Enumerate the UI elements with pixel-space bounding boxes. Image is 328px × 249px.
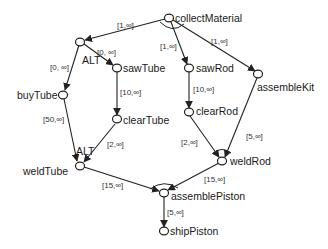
- node-cleartube[interactable]: [113, 115, 122, 123]
- label-assemblepiston: assemblePiston: [171, 190, 245, 202]
- node-alt-split[interactable]: [76, 38, 85, 46]
- elabel-assemblekit-to-weldrod: [5,∞]: [246, 132, 263, 141]
- node-collectmaterial[interactable]: [165, 14, 174, 22]
- label-weldtube: weldTube: [22, 165, 68, 177]
- node-weldrod[interactable]: [218, 157, 227, 165]
- elabel-assemblepiston-to-shippiston: [5,∞]: [167, 208, 184, 217]
- label-sawrod: sawRod: [196, 62, 234, 74]
- elabel-alt-to-buytube: [0, ∞]: [50, 63, 69, 72]
- elabel-sawtube-to-cleartube: [10,∞]: [120, 88, 141, 97]
- node-shippiston[interactable]: [160, 227, 169, 235]
- label-weldrod: weldRod: [229, 155, 271, 167]
- node-assemblepiston[interactable]: [160, 189, 169, 197]
- elabel-sawrod-to-clearrod: [10,∞]: [193, 85, 214, 94]
- edge-clearrod-to-weldrod: [190, 116, 219, 157]
- elabel-weldrod-to-assemblepiston: [15,∞]: [204, 175, 225, 184]
- label-sawtube: sawTube: [123, 62, 165, 74]
- node-assemblekit[interactable]: [254, 70, 263, 78]
- node-sawtube[interactable]: [113, 64, 122, 72]
- elabel-alt-to-sawtube: [0, ∞]: [97, 48, 116, 57]
- elabel-collect-to-assemblekit: [1,∞]: [211, 37, 228, 46]
- node-weldtube[interactable]: [76, 162, 85, 170]
- elabel-buytube-to-weldtube: [50,∞]: [43, 115, 64, 124]
- node-sawrod[interactable]: [185, 64, 194, 72]
- label-collectmaterial: collectMaterial: [175, 12, 242, 24]
- elabel-cleartube-to-weldtube: [2,∞]: [107, 140, 124, 149]
- elabel-collect-to-alt: [1,∞]: [117, 21, 134, 30]
- label-shippiston: shipPiston: [170, 225, 219, 237]
- elabel-weldtube-to-assemblepiston: [15,∞]: [102, 181, 123, 190]
- label-clearrod: clearRod: [196, 105, 238, 117]
- label-cleartube: clearTube: [123, 114, 169, 126]
- elabel-collect-to-sawrod: [1,∞]: [160, 42, 177, 51]
- label-buytube: buyTube: [17, 89, 58, 101]
- node-buytube[interactable]: [59, 91, 68, 99]
- label-alt-join: ALT: [76, 145, 95, 157]
- node-clearrod[interactable]: [185, 108, 194, 116]
- process-diagram: collectMaterial sawTube buyTube clearTub…: [0, 0, 328, 249]
- edge-assemblekit-to-weldrod: [225, 78, 257, 157]
- elabel-clearrod-to-weldrod: [2,∞]: [181, 138, 198, 147]
- label-assemblekit: assembleKit: [257, 81, 314, 93]
